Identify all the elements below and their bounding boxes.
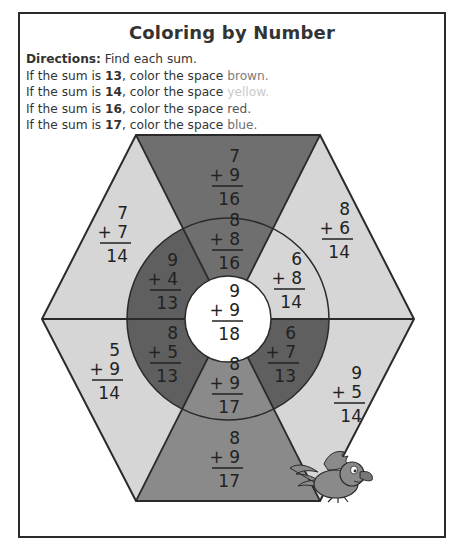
svg-text:7: 7 (229, 146, 240, 166)
svg-text:+ 9: + 9 (90, 359, 120, 379)
svg-text:+ 5: + 5 (148, 342, 178, 362)
svg-text:17: 17 (218, 397, 240, 417)
svg-text:8: 8 (167, 323, 178, 343)
bird-eye-icon (351, 466, 358, 474)
coloring-puzzle: 7 + 9 16 8 + 6 14 9 + 5 14 8 + 9 17 5 + … (0, 0, 459, 546)
svg-text:13: 13 (274, 366, 296, 386)
svg-text:+ 9: + 9 (210, 300, 240, 320)
svg-text:+ 8: + 8 (272, 268, 302, 288)
svg-text:9: 9 (229, 281, 240, 301)
svg-text:6: 6 (291, 249, 302, 269)
svg-text:18: 18 (218, 324, 240, 344)
svg-text:16: 16 (218, 189, 240, 209)
svg-text:6: 6 (285, 323, 296, 343)
svg-text:+ 6: + 6 (320, 218, 350, 238)
svg-text:+ 9: + 9 (210, 447, 240, 467)
svg-text:9: 9 (351, 363, 362, 383)
svg-text:14: 14 (340, 406, 362, 426)
svg-text:8: 8 (229, 428, 240, 448)
svg-text:8: 8 (229, 210, 240, 230)
svg-text:+ 4: + 4 (148, 269, 178, 289)
svg-text:8: 8 (229, 354, 240, 374)
svg-text:9: 9 (167, 250, 178, 270)
svg-text:5: 5 (109, 340, 120, 360)
svg-text:17: 17 (218, 471, 240, 491)
svg-text:+ 5: + 5 (332, 382, 362, 402)
svg-text:14: 14 (106, 246, 128, 266)
svg-text:7: 7 (117, 203, 128, 223)
svg-text:8: 8 (339, 199, 350, 219)
svg-text:+ 7: + 7 (266, 342, 296, 362)
svg-text:+ 7: + 7 (98, 222, 128, 242)
svg-text:13: 13 (156, 293, 178, 313)
svg-text:14: 14 (98, 383, 120, 403)
svg-text:+ 9: + 9 (210, 165, 240, 185)
svg-text:+ 8: + 8 (210, 229, 240, 249)
svg-text:16: 16 (218, 253, 240, 273)
svg-text:+ 9: + 9 (210, 373, 240, 393)
svg-text:14: 14 (280, 292, 302, 312)
svg-text:13: 13 (156, 366, 178, 386)
svg-text:14: 14 (328, 242, 350, 262)
